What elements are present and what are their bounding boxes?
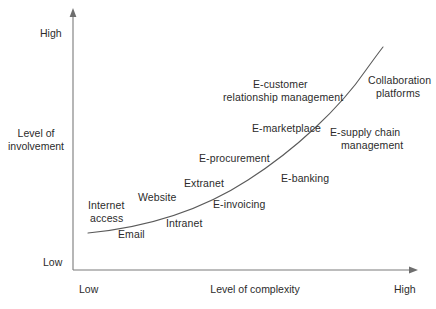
annotation-email: Email xyxy=(118,228,145,241)
diagram-canvas: High Low Level of involvement Low High L… xyxy=(0,0,436,309)
x-axis-low-label: Low xyxy=(79,283,98,296)
annotation-internet-access-line1: Internet xyxy=(88,199,124,212)
annotation-collaboration-line1: Collaboration xyxy=(368,74,431,87)
annotation-extranet: Extranet xyxy=(184,177,224,190)
y-axis-high-label: High xyxy=(40,27,62,40)
annotation-e-marketplace: E-marketplace xyxy=(252,122,321,135)
annotation-ecrm-line2: relationship management xyxy=(223,91,343,104)
x-axis-arrowhead xyxy=(409,267,418,274)
annotation-e-procurement: E-procurement xyxy=(199,152,270,165)
annotation-website: Website xyxy=(138,191,176,204)
annotation-intranet: Intranet xyxy=(166,217,202,230)
annotation-e-invoicing: E-invoicing xyxy=(213,198,265,211)
annotation-escm-line2: management xyxy=(341,139,403,152)
annotation-e-banking: E-banking xyxy=(281,172,329,185)
x-axis-title: Level of complexity xyxy=(185,283,325,296)
x-axis-high-label: High xyxy=(394,283,416,296)
annotation-internet-access-line2: access xyxy=(90,212,123,225)
y-axis-title-line1: Level of xyxy=(0,127,72,140)
annotation-collaboration-line2: platforms xyxy=(376,87,420,100)
annotation-escm-line1: E-supply chain xyxy=(330,126,400,139)
annotation-ecrm-line1: E-customer xyxy=(253,78,308,91)
y-axis-title-line2: involvement xyxy=(0,140,72,153)
y-axis-arrowhead xyxy=(70,8,77,17)
y-axis-low-label: Low xyxy=(43,256,62,269)
